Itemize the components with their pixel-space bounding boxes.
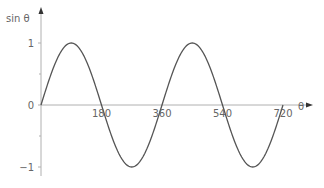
x-tick-label: 180 (92, 108, 111, 119)
x-tick-label: 720 (273, 108, 292, 119)
x-tick-label: 540 (213, 108, 232, 119)
y-tick-label: 1 (28, 38, 34, 49)
y-axis-label: sin θ (6, 13, 30, 24)
y-tick-label: −1 (19, 162, 34, 173)
x-axis-label: θ (298, 101, 304, 112)
x-axis-arrow-icon (306, 103, 313, 108)
sine-chart: 10−1180360540720 sin θ θ (0, 0, 324, 188)
y-tick-label: 0 (28, 100, 34, 111)
y-axis-arrow-icon (39, 7, 44, 14)
x-tick-label: 360 (152, 108, 171, 119)
